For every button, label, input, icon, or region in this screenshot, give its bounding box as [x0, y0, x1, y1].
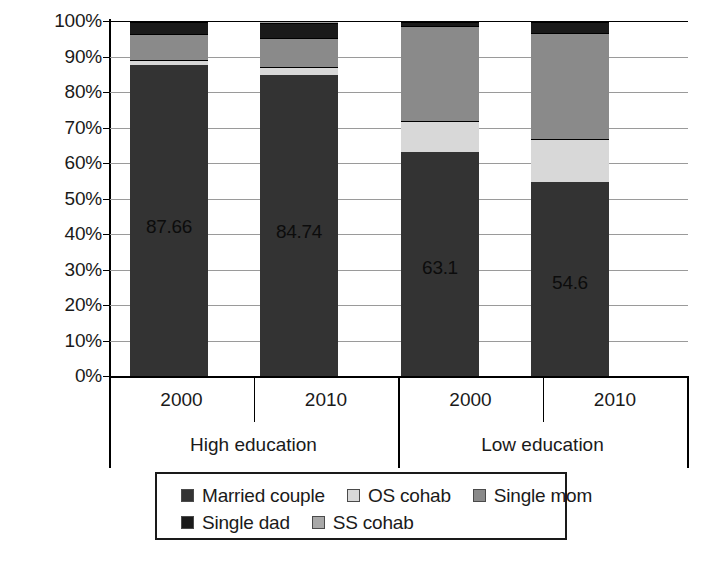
- legend-row: Single dadSS cohab: [181, 509, 565, 536]
- legend-label: Married couple: [202, 485, 325, 507]
- legend-swatch-icon: [181, 489, 194, 502]
- axis-frame-left: [109, 378, 111, 468]
- stacked-bar-chart: 100%90%80%70%60%50%40%30%20%10%0% 87.668…: [0, 0, 719, 561]
- gridline: [110, 376, 688, 377]
- y-axis-tick: [103, 57, 110, 58]
- bar[interactable]: [401, 21, 479, 376]
- x-axis-category-label: 2010: [543, 378, 687, 422]
- x-axis-category-label: 2000: [109, 378, 254, 422]
- bar-segment[interactable]: [531, 33, 609, 138]
- legend-item[interactable]: Married couple: [181, 485, 325, 507]
- axis-frame-right: [687, 378, 689, 468]
- bar[interactable]: [260, 21, 338, 376]
- y-axis-tick: [103, 92, 110, 93]
- legend-swatch-icon: [473, 489, 486, 502]
- plot-area: 87.6684.7463.154.6: [110, 21, 688, 376]
- y-axis-tick-label: 100%: [34, 10, 102, 32]
- y-axis-tick-label: 60%: [34, 152, 102, 174]
- y-axis-tick: [103, 163, 110, 164]
- y-axis-tick: [103, 21, 110, 22]
- bar-segment[interactable]: [130, 22, 208, 33]
- bar-value-label: 54.6: [531, 272, 609, 294]
- y-axis-tick-label: 40%: [34, 223, 102, 245]
- axis-group-separator: [398, 378, 400, 468]
- bar-segment[interactable]: [401, 26, 479, 121]
- x-axis-group-label: Low education: [398, 422, 687, 468]
- y-axis-tick-label: 30%: [34, 259, 102, 281]
- legend-label: Single mom: [494, 485, 592, 507]
- legend-item[interactable]: OS cohab: [347, 485, 451, 507]
- bar[interactable]: [130, 21, 208, 376]
- legend-swatch-icon: [312, 516, 325, 529]
- bar-value-label: 87.66: [130, 216, 208, 238]
- legend-item[interactable]: Single dad: [181, 512, 290, 534]
- bar-value-label: 84.74: [260, 221, 338, 243]
- y-axis-labels: 100%90%80%70%60%50%40%30%20%10%0%: [32, 21, 102, 376]
- x-axis-group-label: High education: [109, 422, 398, 468]
- bar-segment[interactable]: [260, 23, 338, 38]
- y-axis-tick-label: 50%: [34, 188, 102, 210]
- y-axis-tick-label: 0%: [34, 365, 102, 387]
- bar-segment[interactable]: [531, 139, 609, 183]
- y-axis-tick-label: 70%: [34, 117, 102, 139]
- legend-label: OS cohab: [368, 485, 451, 507]
- y-axis-tick-label: 10%: [34, 330, 102, 352]
- y-axis-tick: [103, 305, 110, 306]
- chart-legend: Married coupleOS cohabSingle momSingle d…: [155, 472, 567, 540]
- legend-item[interactable]: Single mom: [473, 485, 592, 507]
- y-axis-tick-label: 90%: [34, 46, 102, 68]
- y-axis-tick: [103, 376, 110, 377]
- legend-row: Married coupleOS cohabSingle mom: [181, 482, 565, 509]
- y-axis-tick-label: 80%: [34, 81, 102, 103]
- y-axis-tick: [103, 234, 110, 235]
- bar-segment[interactable]: [401, 121, 479, 152]
- bar-segment[interactable]: [531, 22, 609, 34]
- legend-item[interactable]: SS cohab: [312, 512, 414, 534]
- y-axis-tick: [103, 128, 110, 129]
- y-axis-tick: [103, 199, 110, 200]
- y-axis-tick: [103, 341, 110, 342]
- legend-label: SS cohab: [333, 512, 414, 534]
- y-axis-tick: [103, 270, 110, 271]
- legend-swatch-icon: [347, 489, 360, 502]
- bar-segment[interactable]: [260, 67, 338, 75]
- bar[interactable]: [531, 21, 609, 376]
- bar-segment[interactable]: [260, 38, 338, 67]
- legend-swatch-icon: [181, 516, 194, 529]
- y-axis-tick-label: 20%: [34, 294, 102, 316]
- x-axis-category-label: 2000: [398, 378, 543, 422]
- x-axis-category-label: 2010: [254, 378, 398, 422]
- bar-segment[interactable]: [130, 34, 208, 60]
- bar-value-label: 63.1: [401, 257, 479, 279]
- legend-label: Single dad: [202, 512, 290, 534]
